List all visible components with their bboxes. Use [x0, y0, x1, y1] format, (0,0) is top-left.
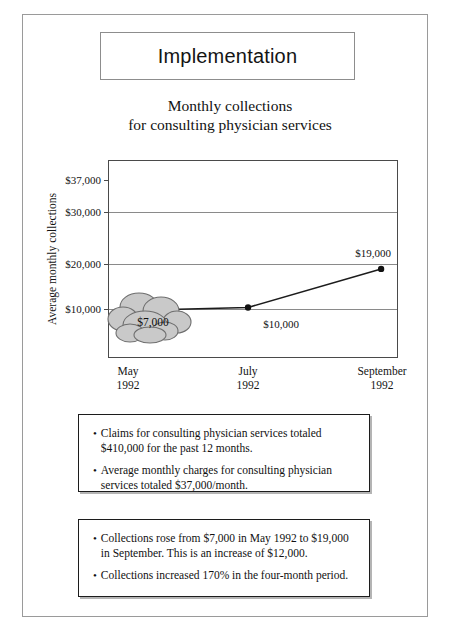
bullet-marker-icon: • [93, 531, 97, 560]
x-tick-label-september: September 1992 [334, 364, 430, 392]
slide-header-box: Implementation [100, 32, 355, 80]
list-item: • Collections rose from $7,000 in May 19… [93, 531, 355, 560]
x-tick-label-may: May 1992 [80, 364, 176, 392]
list-item-text: Collections rose from $7,000 in May 1992… [101, 531, 355, 560]
data-point-label-2: $10,000 [263, 318, 299, 330]
list-item: • Collections increased 170% in the four… [93, 568, 355, 583]
y-tick-label-30000: $30,000 [65, 206, 101, 218]
bullet-marker-icon: • [93, 426, 97, 455]
list-item: • Claims for consulting physician servic… [93, 426, 355, 455]
bullet-box-collections: • Collections rose from $7,000 in May 19… [78, 519, 370, 597]
data-point-label-1: $7,000 [105, 289, 201, 346]
bullet-box-claims: • Claims for consulting physician servic… [78, 414, 370, 492]
list-item: • Average monthly charges for consulting… [93, 463, 355, 492]
list-item-text: Collections increased 170% in the four-m… [101, 568, 355, 583]
y-tick-label-37000: $37,000 [65, 174, 101, 186]
y-axis-title: Average monthly collections [44, 160, 60, 358]
y-tick-label-10000: $10,000 [65, 303, 101, 315]
chart-title-line-1: Monthly collections [60, 96, 400, 115]
chart-title: Monthly collections for consulting physi… [60, 96, 400, 134]
y-tick-label-20000: $20,000 [65, 258, 101, 270]
bullet-marker-icon: • [93, 568, 97, 583]
data-point-label-3: $19,000 [355, 247, 391, 259]
page-title: Implementation [158, 45, 298, 68]
list-item-text: Average monthly charges for consulting p… [101, 463, 355, 492]
bullet-marker-icon: • [93, 463, 97, 492]
chart-title-line-2: for consulting physician services [60, 115, 400, 134]
list-item-text: Claims for consulting physician services… [101, 426, 355, 455]
cloud-callout-icon: $7,000 [105, 289, 201, 346]
x-tick-label-july: July 1992 [200, 364, 296, 392]
